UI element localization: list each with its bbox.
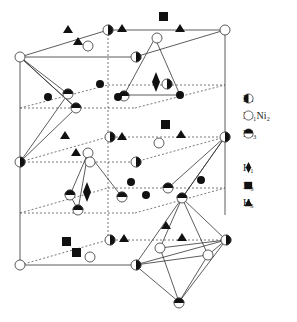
legend-item-h5: H₅ xyxy=(243,197,254,208)
legend-item-ni3: Ni₃ xyxy=(243,128,257,139)
legend-item-h1: H₁ xyxy=(243,162,254,173)
diamond-icon xyxy=(243,162,254,173)
legend-item-la: La xyxy=(243,93,254,104)
half-filled-top-circle-icon xyxy=(243,128,254,139)
open-circle-icon xyxy=(243,110,254,121)
triangle-icon xyxy=(243,197,254,208)
legend-item-ni1ni2: Ni₁Ni₂ xyxy=(243,110,270,121)
legend-item-h3: H₃ xyxy=(243,180,254,191)
half-filled-circle-icon xyxy=(243,93,254,104)
legend: La Ni₁Ni₂ Ni₃ H₁ H₃ H₅ xyxy=(243,0,297,322)
square-icon xyxy=(243,180,254,191)
